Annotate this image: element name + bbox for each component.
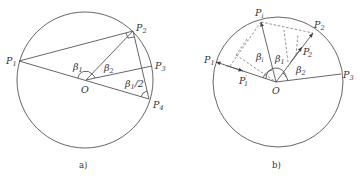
angle-arc-beta-i bbox=[263, 70, 272, 78]
label-p3: P3 bbox=[342, 69, 354, 82]
angle-arc-beta1-half bbox=[141, 91, 147, 97]
label-center-o: O bbox=[272, 85, 280, 96]
figure-a: P1 P2 P3 P4 O β1 β2 β1/2 a) bbox=[5, 12, 166, 170]
label-p3: P3 bbox=[154, 60, 166, 73]
label-p2: P2 bbox=[313, 19, 325, 32]
diagram-canvas: P1 P2 P3 P4 O β1 β2 β1/2 a) bbox=[0, 0, 360, 180]
label-p1-prime: P′1 bbox=[238, 74, 248, 88]
label-p2-prime: P′2 bbox=[302, 45, 312, 59]
caption-b: b) bbox=[272, 160, 281, 170]
angle-arc-beta2 bbox=[92, 74, 95, 78]
label-beta2: β2 bbox=[103, 62, 114, 75]
label-pi: Pi bbox=[254, 7, 264, 20]
label-p4: P4 bbox=[152, 99, 164, 112]
label-p1: P1 bbox=[5, 55, 17, 68]
vector-p1-prime bbox=[226, 66, 243, 72]
dash-rect-c bbox=[296, 34, 298, 55]
label-beta1: β1 bbox=[72, 61, 83, 74]
label-p1: P1 bbox=[203, 54, 215, 67]
caption-a: a) bbox=[79, 160, 87, 170]
dash-pi-p2 bbox=[261, 22, 313, 33]
chord-p1-p2 bbox=[19, 31, 133, 61]
label-center-o: O bbox=[81, 84, 89, 95]
label-beta2: β2 bbox=[295, 64, 306, 77]
label-beta-i: βi bbox=[255, 51, 264, 64]
label-p2: P2 bbox=[135, 22, 147, 35]
vector-o-pi bbox=[261, 22, 276, 82]
dash-rect-b bbox=[236, 39, 247, 55]
label-beta1-half: β1/2 bbox=[124, 78, 144, 91]
figure-b: P1 Pi P2 P3 P′1 P′2 O βi β1 β2 b) bbox=[203, 7, 354, 170]
label-beta1: β1 bbox=[274, 53, 285, 66]
